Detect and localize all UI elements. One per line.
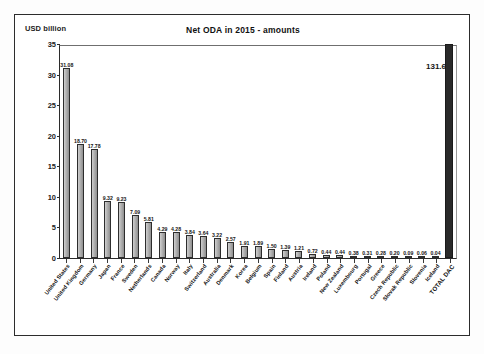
bar-slot: 0.31 [360,46,374,258]
bar-total-dac[interactable] [445,44,453,258]
bar-value-label: 4.28 [171,226,181,232]
bar-value-label: 1.91 [239,240,249,246]
bar-slot: 3.64 [197,46,211,258]
bar-slot: 17.78 [87,46,101,258]
bar-value-label: 1.21 [294,245,304,251]
bar-value-label: 0.04 [430,250,440,256]
bar-slot: 0.28 [374,46,388,258]
bar[interactable]: 18.70 [77,144,84,258]
y-axis-tick-label: 25 [48,101,56,110]
chart-figure: USD billion Net ODA in 2015 - amounts 05… [15,15,471,337]
bar-slot: 131.6 [442,46,456,258]
bar[interactable]: 0.72 [309,254,316,258]
bar-value-label: 0.20 [390,250,400,256]
bar-value-label: 0.06 [417,250,427,256]
bar-slot: 0.09 [401,46,415,258]
bar-slot: 9.32 [101,46,115,258]
y-axis-tick-label: 20 [48,131,56,140]
bar-value-label: 2.57 [226,236,236,242]
bar[interactable]: 0.38 [350,256,357,258]
chart-title: Net ODA in 2015 - amounts [15,25,471,35]
bar-value-label: 0.38 [349,250,359,256]
bar[interactable]: 3.84 [186,235,193,258]
bar-slot: 4.28 [169,46,183,258]
y-axis-tick-mark [57,44,60,45]
bar-slot: 4.29 [156,46,170,258]
bar[interactable]: 1.21 [295,251,302,258]
bar-slot: 0.44 [333,46,347,258]
bar[interactable]: 1.39 [282,250,289,258]
bar-slot: 0.44 [319,46,333,258]
bar-value-label: 0.09 [403,250,413,256]
bar-value-label: 4.29 [157,226,167,232]
bar[interactable]: 0.31 [364,256,371,258]
bar[interactable]: 5.81 [145,222,152,258]
bar-value-label: 1.89 [253,240,263,246]
bar[interactable]: 0.06 [418,256,425,258]
bar[interactable]: 0.28 [377,256,384,258]
bar[interactable]: 9.32 [104,201,111,258]
bar-slot: 1.50 [265,46,279,258]
bar-slot: 1.39 [279,46,293,258]
x-axis-label-slot: Norway [169,263,183,333]
bar[interactable]: 3.64 [200,236,207,258]
bar[interactable]: 1.89 [255,246,262,258]
x-axis-category-labels: United StatesUnited KingdomGermanyJapanF… [59,263,457,333]
y-axis-tick-label: 10 [48,192,56,201]
y-axis-tick-label: 5 [52,223,56,232]
bar-value-label: 0.44 [321,249,331,255]
bar-value-label: 9.32 [103,195,113,201]
bar[interactable]: 0.44 [323,255,330,258]
bar-slot: 1.89 [251,46,265,258]
bar-value-label: 0.28 [376,250,386,256]
y-axis-tick-label: 35 [48,40,56,49]
bar-value-label: 3.84 [185,229,195,235]
y-axis-tick-label: 30 [48,70,56,79]
bar-slot: 3.22 [210,46,224,258]
bar[interactable]: 4.29 [159,232,166,258]
bar-slot: 3.84 [183,46,197,258]
bar[interactable]: 2.57 [227,242,234,258]
bar-value-label: 7.09 [130,209,140,215]
bar-value-label: 0.31 [362,250,372,256]
bar-value-label: 3.64 [198,230,208,236]
bar-value-label: 0.72 [308,248,318,254]
bar-slot: 9.23 [115,46,129,258]
bar-value-label: 18.70 [74,138,87,144]
bar-value-label: 31.08 [60,62,73,68]
bar[interactable]: 1.50 [268,249,275,258]
bar[interactable]: 3.22 [214,238,221,258]
bar-slot: 1.21 [292,46,306,258]
bar[interactable]: 0.44 [336,255,343,258]
bar[interactable]: 4.28 [173,232,180,258]
bar-value-label: 17.78 [88,143,101,149]
bar-slot: 0.04 [429,46,443,258]
y-axis-tick-label: 0 [52,254,56,263]
bar-slot: 0.06 [415,46,429,258]
plot-area: 05101520253035 31.0818.7017.789.329.237.… [59,45,457,259]
y-axis-tick-label: 15 [48,162,56,171]
bar-value-label: 0.44 [335,249,345,255]
bar-value-label: 1.50 [267,243,277,249]
bar-value-label: 1.39 [280,244,290,250]
bar-value-label: 131.6 [426,62,446,71]
bar-slot: 2.57 [224,46,238,258]
bar-value-label: 5.81 [144,216,154,222]
bar-slot: 0.72 [306,46,320,258]
bar[interactable]: 0.09 [405,256,412,258]
bar[interactable]: 9.23 [118,202,125,258]
bar[interactable]: 7.09 [132,215,139,258]
bar-value-label: 3.22 [212,232,222,238]
scanned-page-frame: USD billion Net ODA in 2015 - amounts 05… [14,14,470,336]
bar[interactable]: 17.78 [91,149,98,258]
bar-series: 31.0818.7017.789.329.237.095.814.294.283… [60,46,456,258]
bar[interactable]: 0.04 [432,256,439,258]
bar[interactable]: 0.20 [391,256,398,258]
bar-value-label: 9.23 [116,196,126,202]
bar-slot: 0.20 [388,46,402,258]
bar[interactable]: 31.08 [63,68,70,258]
x-axis-label-slot: TOTAL DAC [443,263,457,333]
bar-slot: 5.81 [142,46,156,258]
bar-slot: 1.91 [238,46,252,258]
bar[interactable]: 1.91 [241,246,248,258]
